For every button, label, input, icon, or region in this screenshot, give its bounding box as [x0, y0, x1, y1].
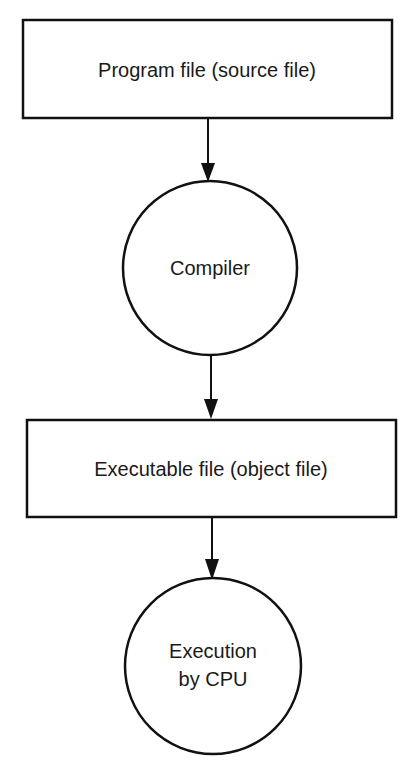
node-execution-by-cpu: Execution by CPU: [125, 578, 301, 754]
node-program-file: Program file (source file): [23, 20, 392, 118]
flowchart: Program file (source file) Compiler Exec…: [0, 0, 420, 775]
node-compiler: Compiler: [123, 181, 297, 355]
arrow-program-to-compiler: [201, 118, 215, 182]
node-program-file-label: Program file (source file): [98, 59, 316, 81]
arrowhead-icon: [201, 163, 215, 182]
arrowhead-icon: [204, 399, 218, 419]
node-executable-file: Executable file (object file): [27, 420, 396, 517]
arrow-compiler-to-executable: [204, 355, 218, 419]
arrow-executable-to-execution: [205, 517, 219, 580]
node-compiler-label: Compiler: [170, 257, 250, 279]
node-execution-label-line1: Execution: [169, 640, 257, 662]
node-execution-label-line2: by CPU: [179, 668, 248, 690]
node-executable-file-label: Executable file (object file): [94, 458, 327, 480]
